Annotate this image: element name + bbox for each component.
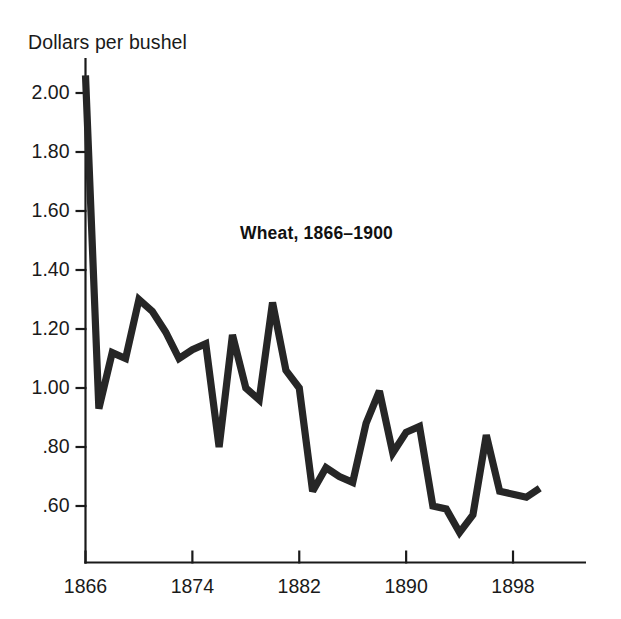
y-axis-tick-label: .80 <box>8 435 70 458</box>
y-axis-tick-label: 2.00 <box>8 81 70 104</box>
y-axis-tick-label: 1.00 <box>8 376 70 399</box>
y-axis-tick-label: 1.80 <box>8 140 70 163</box>
y-axis-tick-label: 1.60 <box>8 199 70 222</box>
plot-area <box>0 0 621 619</box>
y-axis-tick-label: 1.20 <box>8 317 70 340</box>
y-axis-tick-label: .60 <box>8 494 70 517</box>
x-axis-tick-label: 1898 <box>463 575 563 598</box>
wheat-price-chart: Dollars per bushel Wheat, 1866–1900 2.00… <box>0 0 621 619</box>
axis-lines <box>84 58 586 564</box>
x-axis-tick-label: 1890 <box>356 575 456 598</box>
x-axis-tick-label: 1882 <box>249 575 349 598</box>
y-axis-tick-label: 1.40 <box>8 258 70 281</box>
x-axis-tick-label: 1874 <box>142 575 242 598</box>
wheat-price-line <box>86 75 540 532</box>
x-axis-tick-label: 1866 <box>36 575 136 598</box>
